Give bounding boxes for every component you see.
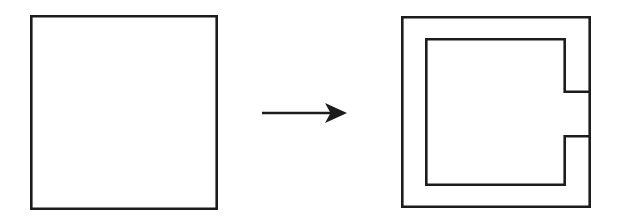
diagram-root: Square to C-shaped outline transformatio…: [0, 0, 621, 224]
shape-transformation-figure: [0, 0, 621, 224]
